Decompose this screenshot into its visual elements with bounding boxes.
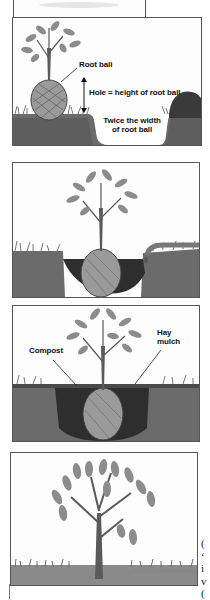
step-4-illustration: [11, 453, 197, 585]
water-drop: [144, 257, 148, 263]
ground: [11, 565, 197, 585]
compost-leader-line: [53, 360, 77, 386]
hole-depth-label: Hole = height of root ball: [89, 88, 180, 97]
root-ball: [81, 249, 121, 297]
leaves: [21, 19, 82, 63]
hole-width-label-line2: of root ball: [99, 125, 165, 134]
faded-sketch: [14, 0, 145, 17]
step-4-grown-tree-panel: [10, 452, 198, 586]
grass: [17, 375, 193, 384]
soil-left: [13, 251, 65, 297]
page-rule: [9, 584, 10, 599]
trunk: [99, 208, 103, 251]
leaves: [50, 458, 157, 545]
previous-panel-fragment: [13, 0, 146, 18]
step-1-dig-hole-panel: Root ball Hole = height of root ball Twi…: [12, 17, 202, 146]
soil-right: [141, 249, 199, 297]
mulch-layer: [13, 384, 199, 388]
root-ball-label: Root ball: [79, 60, 112, 69]
side-text-fragment: (: [201, 537, 205, 550]
mulch-label-line1: Hay: [157, 328, 180, 337]
step-2-place-and-water-panel: [12, 162, 200, 298]
step-2-illustration: [13, 163, 199, 297]
side-text-fragment: i: [201, 562, 204, 575]
step-3-compost-mulch-panel: Compost Hay mulch: [12, 305, 200, 442]
hole-width-label: Twice the width of root ball: [99, 116, 165, 134]
mulch-leader-line: [135, 350, 161, 384]
mulch-label: Hay mulch: [157, 328, 180, 346]
mulch-label-line2: mulch: [157, 337, 180, 346]
side-text-fragment: (: [201, 587, 205, 600]
hole-width-label-line1: Twice the width: [99, 116, 165, 125]
compost-label: Compost: [29, 346, 63, 355]
step-3-illustration: [13, 306, 199, 441]
trunk: [101, 346, 105, 390]
